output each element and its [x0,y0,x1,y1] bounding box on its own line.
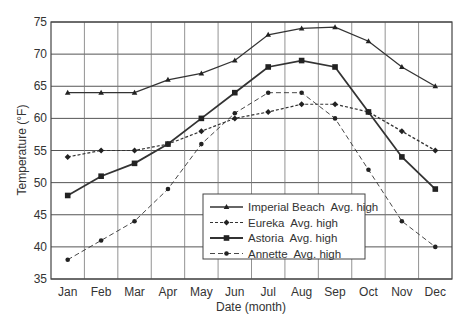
circle-marker [400,219,405,224]
y-tick-label: 75 [34,15,48,29]
square-marker [98,173,104,179]
y-tick-label: 35 [34,272,48,286]
square-marker [332,64,338,70]
circle-marker [266,90,271,95]
circle-marker [199,142,204,147]
y-tick-label: 60 [34,111,48,125]
square-marker [224,235,230,241]
square-marker [199,116,205,122]
square-marker [265,64,271,70]
diamond-marker [399,128,405,134]
circle-marker [65,257,70,262]
diamond-marker [265,109,271,115]
circle-marker [99,238,104,243]
square-marker [299,58,305,64]
line-chart: 354045505560657075 JanFebMarAprMayJunJul… [0,0,467,327]
x-axis-title: Date (month) [216,300,286,314]
diamond-marker [299,101,305,107]
x-tick-label: Mar [124,285,145,299]
legend-label: Annette Avg. high [248,248,341,260]
legend: Imperial Beach Avg. highEureka Avg. high… [203,194,378,260]
diamond-marker [198,128,204,134]
circle-marker [224,251,229,256]
circle-marker [232,111,237,116]
x-tick-label: Sep [324,285,346,299]
diamond-marker [232,115,238,121]
y-tick-label: 50 [34,176,48,190]
x-tick-label: May [190,285,213,299]
x-tick-label: Nov [391,285,412,299]
y-axis-ticks: 354045505560657075 [34,15,48,286]
circle-marker [166,187,171,192]
x-tick-label: Oct [359,285,378,299]
x-tick-label: Jul [261,285,276,299]
y-tick-label: 40 [34,240,48,254]
x-tick-label: Jan [58,285,77,299]
diamond-marker [132,148,138,154]
diamond-marker [65,154,71,160]
square-marker [165,141,171,147]
x-tick-label: Feb [91,285,112,299]
square-marker [132,161,138,167]
y-tick-label: 55 [34,144,48,158]
circle-marker [132,219,137,224]
x-tick-label: Dec [425,285,446,299]
diamond-marker [332,101,338,107]
x-tick-label: Apr [159,285,178,299]
x-tick-label: Aug [291,285,312,299]
circle-marker [366,167,371,172]
square-marker [366,109,372,115]
x-tick-label: Jun [225,285,244,299]
square-marker [65,193,71,199]
legend-label: Astoria Avg. high [248,232,337,244]
square-marker [399,154,405,160]
y-tick-label: 45 [34,208,48,222]
y-axis-title: Temperature (°F) [15,105,29,196]
y-tick-label: 65 [34,79,48,93]
legend-label: Eureka Avg. high [248,217,338,229]
square-marker [432,186,438,192]
circle-marker [299,90,304,95]
x-axis-ticks: JanFebMarAprMayJunJulAugSepOctNovDec [58,285,446,299]
diamond-marker [98,148,104,154]
circle-marker [333,116,338,121]
square-marker [232,90,238,96]
circle-marker [433,245,438,250]
legend-label: Imperial Beach Avg. high [248,201,378,213]
y-tick-label: 70 [34,47,48,61]
diamond-marker [432,148,438,154]
